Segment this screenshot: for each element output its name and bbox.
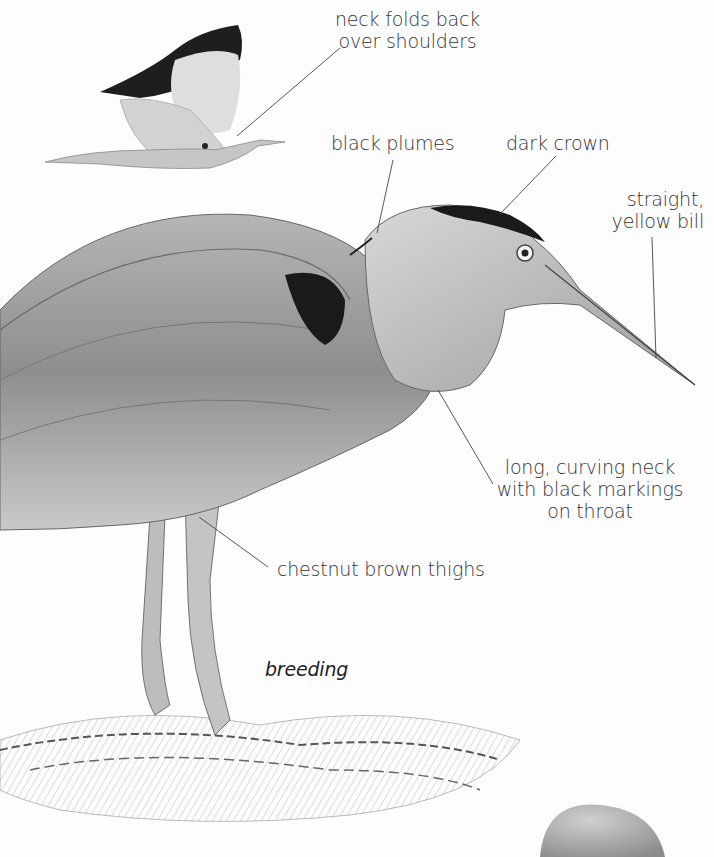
label-thighs: chestnut brown thighs [277,558,485,580]
label-neck-folds: neck folds back over shoulders [335,8,480,52]
grass [0,715,520,821]
heron-illustration: neck folds back over shoulders black plu… [0,0,714,857]
flying-heron [45,25,285,169]
label-bill: straight, yellow bill [600,188,704,232]
egg [540,805,665,857]
heron-drawing [0,0,714,857]
label-breeding: breeding [265,658,348,680]
label-curving-neck: long, curving neck with black markings o… [490,456,690,522]
label-dark-crown: dark crown [506,132,610,154]
label-black-plumes: black plumes [331,132,455,154]
